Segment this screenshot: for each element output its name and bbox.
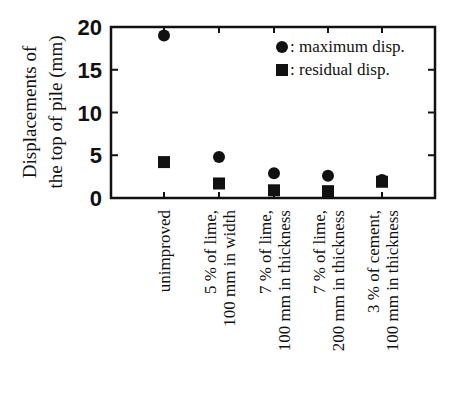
y-tick-label: 15 xyxy=(78,58,102,83)
y-tick-label: 0 xyxy=(90,186,102,211)
marker-maximum-disp xyxy=(213,151,225,163)
x-category-label: 7 % of lime, xyxy=(256,210,275,294)
marker-maximum-disp xyxy=(268,167,280,179)
marker-residual-disp xyxy=(268,184,280,196)
x-category-label: 100 mm in width xyxy=(220,210,239,327)
marker-residual-disp xyxy=(213,177,225,189)
y-axis-title-line: Displacements of xyxy=(19,45,40,178)
x-category-label: 100 mm in thickness xyxy=(383,210,402,351)
legend-circle-icon xyxy=(276,41,288,53)
x-axis-category-labels: unimproved5 % of lime,100 mm in width7 %… xyxy=(155,210,402,352)
x-category-label: 7 % of lime, xyxy=(310,210,329,294)
marker-maximum-disp xyxy=(322,170,334,182)
y-axis-title: Displacements ofthe top of pile (mm) xyxy=(19,35,67,188)
y-tick-label: 5 xyxy=(90,143,102,168)
y-tick-label: 10 xyxy=(78,101,102,126)
chart: Displacements ofthe top of pile (mm) 051… xyxy=(0,0,461,407)
y-tick-label: 20 xyxy=(78,15,102,40)
marker-residual-disp xyxy=(322,185,334,197)
x-category-label: 200 mm in thickness xyxy=(329,210,348,351)
marker-residual-disp xyxy=(376,176,388,188)
x-category-label: unimproved xyxy=(155,210,174,293)
y-axis-title-line: the top of pile (mm) xyxy=(45,35,67,188)
x-category-label: 5 % of lime, xyxy=(201,210,220,294)
marker-maximum-disp xyxy=(158,30,170,42)
legend: : maximum disp.: residual disp. xyxy=(276,37,405,79)
legend-square-icon xyxy=(276,64,288,76)
x-category-label: 100 mm in thickness xyxy=(275,210,294,351)
marker-residual-disp xyxy=(158,156,170,168)
legend-label: : residual disp. xyxy=(290,60,390,79)
legend-label: : maximum disp. xyxy=(290,37,405,56)
x-category-label: 3 % of cement, xyxy=(364,210,383,313)
